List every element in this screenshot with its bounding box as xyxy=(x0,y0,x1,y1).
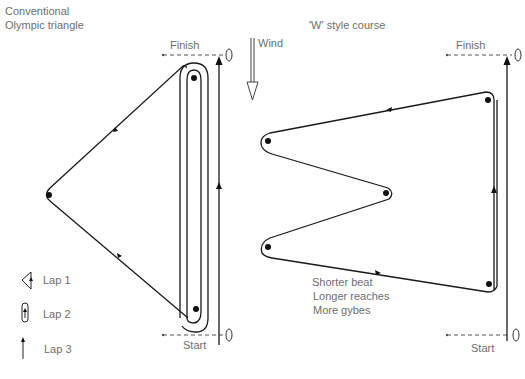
olympic-triangle-course xyxy=(46,49,232,345)
w-beat-arrow-icon xyxy=(491,186,497,193)
w-bottom-right-mark xyxy=(486,281,492,287)
w-left-upper-mark xyxy=(265,138,271,144)
olympic-windward-mark xyxy=(191,75,197,81)
lap2-outer-loop xyxy=(180,63,208,332)
lap1-arrow-icon-2 xyxy=(117,253,122,258)
lap2-inner-loop xyxy=(187,70,201,323)
olympic-wing-mark xyxy=(46,192,52,198)
olympic-leeward-mark xyxy=(193,306,199,312)
olympic-start-buoy-icon xyxy=(226,329,232,341)
triangle-lap-icon xyxy=(22,272,33,289)
w-start-buoy-icon xyxy=(513,329,519,341)
beat-arrow-icon xyxy=(21,337,25,359)
wind-arrow-icon xyxy=(247,38,258,100)
w-finish-arrow-icon xyxy=(504,56,511,65)
w-course-path xyxy=(261,92,497,292)
lap1-triangle-path xyxy=(47,66,189,318)
w-top-right-mark xyxy=(485,97,491,103)
lap3-mid-arrow-icon xyxy=(216,182,222,189)
w-left-lower-mark xyxy=(265,244,271,250)
w-middle-mark xyxy=(383,190,389,196)
legend xyxy=(21,272,33,359)
lap3-finish-arrow-icon xyxy=(216,56,223,65)
olympic-finish-buoy-icon xyxy=(226,49,232,61)
w-style-course xyxy=(261,49,521,341)
sausage-lap-icon xyxy=(22,303,28,322)
course-diagram xyxy=(0,0,525,379)
w-finish-buoy-icon xyxy=(515,49,521,61)
